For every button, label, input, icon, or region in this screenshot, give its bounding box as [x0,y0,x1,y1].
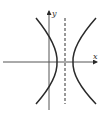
y-axis-label: y [51,9,57,18]
hyperbola-diagram: y x [0,0,109,118]
right-branch [73,18,96,104]
x-axis-label: x [93,52,98,61]
left-branch [36,18,57,104]
